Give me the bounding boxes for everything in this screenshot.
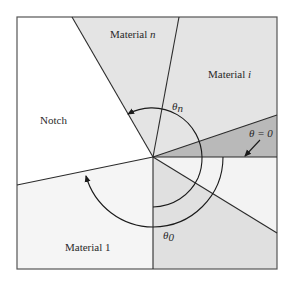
- material-i-label: Material i: [208, 68, 251, 80]
- theta-n-label: θn: [172, 100, 183, 114]
- material-1-label: Material 1: [65, 241, 111, 253]
- theta-0-label: θ0: [163, 229, 174, 243]
- notch-diagram: Notch Material n Material i Material 1 θ…: [0, 0, 304, 281]
- notch-label: Notch: [40, 114, 67, 126]
- theta-zero-label: θ = 0: [249, 127, 273, 139]
- material-n-label: Material n: [110, 28, 156, 40]
